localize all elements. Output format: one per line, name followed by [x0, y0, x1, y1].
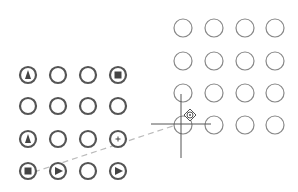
grid-cell[interactable]	[266, 116, 284, 134]
grid-cell[interactable]	[80, 163, 96, 179]
grid-cell[interactable]	[50, 67, 66, 83]
grid-cell[interactable]	[174, 52, 192, 70]
square-icon	[25, 168, 32, 175]
grid-cell[interactable]	[205, 84, 223, 102]
left-circle-grid	[20, 67, 126, 179]
diagram-canvas	[0, 0, 298, 192]
grid-cell[interactable]	[110, 131, 126, 147]
grid-cell[interactable]	[80, 131, 96, 147]
grid-cell[interactable]	[80, 98, 96, 114]
grid-cell[interactable]	[174, 19, 192, 37]
grid-cell[interactable]	[110, 163, 126, 179]
grid-cell[interactable]	[174, 84, 192, 102]
grid-cell[interactable]	[50, 163, 66, 179]
grid-cell[interactable]	[205, 52, 223, 70]
grid-cell[interactable]	[266, 19, 284, 37]
grid-cell[interactable]	[236, 84, 254, 102]
move-icon	[184, 109, 196, 121]
grid-cell[interactable]	[266, 52, 284, 70]
grid-cell[interactable]	[20, 131, 36, 147]
grid-cell[interactable]	[80, 67, 96, 83]
grid-cell[interactable]	[20, 163, 36, 179]
grid-cell[interactable]	[20, 98, 36, 114]
grid-cell[interactable]	[205, 116, 223, 134]
crosshair-cursor[interactable]	[151, 94, 211, 158]
grid-cell[interactable]	[110, 67, 126, 83]
grid-cell[interactable]	[20, 67, 36, 83]
grid-cell[interactable]	[205, 19, 223, 37]
grid-cell[interactable]	[266, 84, 284, 102]
grid-cell[interactable]	[236, 52, 254, 70]
grid-cell[interactable]	[50, 131, 66, 147]
grid-cell[interactable]	[50, 98, 66, 114]
square-icon	[115, 72, 122, 79]
grid-cell[interactable]	[110, 98, 126, 114]
grid-cell[interactable]	[236, 19, 254, 37]
grid-cell[interactable]	[236, 116, 254, 134]
